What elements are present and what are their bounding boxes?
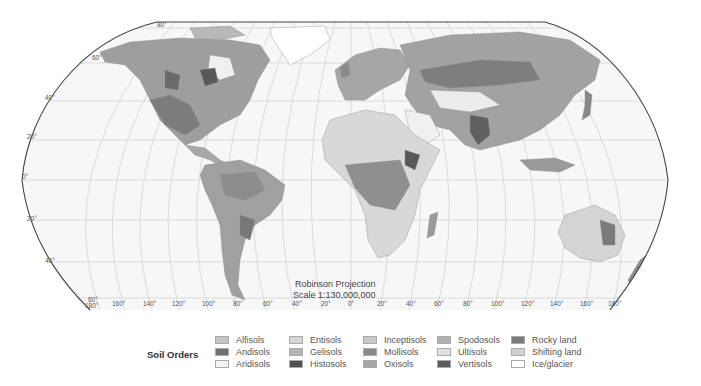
legend-item-mollisols: Mollisols bbox=[363, 346, 437, 358]
legend-column: Inceptisols Mollisols Oxisols bbox=[363, 334, 437, 370]
lon-label: 100° bbox=[491, 300, 505, 307]
legend-column: Entisols Gelisols Histosols bbox=[289, 334, 363, 370]
legend-column: Alfisols Andisols Aridisols bbox=[215, 334, 289, 370]
lon-label: 20° bbox=[321, 300, 331, 307]
legend-column: Spodosols Ultisols Vertisols bbox=[437, 334, 511, 370]
lon-label: 80° bbox=[233, 300, 243, 307]
swatch-icon bbox=[363, 348, 377, 356]
legend-item-shifting-land: Shifting land bbox=[511, 346, 585, 358]
swatch-icon bbox=[511, 360, 525, 368]
legend-item-inceptisols: Inceptisols bbox=[363, 334, 437, 346]
lon-label: 180° bbox=[85, 302, 99, 309]
lat-label: 20° bbox=[27, 215, 37, 222]
legend-item-histosols: Histosols bbox=[289, 358, 363, 370]
lat-label: 40° bbox=[45, 94, 55, 101]
lon-label: 0° bbox=[348, 300, 355, 307]
lon-label: 60° bbox=[434, 300, 444, 307]
swatch-icon bbox=[289, 336, 303, 344]
scale-label: Scale 1:130,000,000 bbox=[293, 290, 376, 300]
legend-item-vertisols: Vertisols bbox=[437, 358, 511, 370]
legend-item-rocky-land: Rocky land bbox=[511, 334, 585, 346]
legend-column: Rocky land Shifting land Ice/glacier bbox=[511, 334, 585, 370]
swatch-icon bbox=[215, 336, 229, 344]
swatch-icon bbox=[289, 348, 303, 356]
lat-label: 80° bbox=[157, 21, 167, 28]
lon-label: 40° bbox=[406, 300, 416, 307]
legend-item-alfisols: Alfisols bbox=[215, 334, 289, 346]
lon-label: 60° bbox=[263, 300, 273, 307]
lon-label: 120° bbox=[521, 300, 535, 307]
lat-label: 0° bbox=[22, 173, 29, 180]
legend-item-gelisols: Gelisols bbox=[289, 346, 363, 358]
swatch-icon bbox=[511, 348, 525, 356]
lon-label: 120° bbox=[172, 300, 186, 307]
lon-label: 40° bbox=[292, 300, 302, 307]
swatch-icon bbox=[437, 336, 451, 344]
swatch-icon bbox=[437, 360, 451, 368]
projection-label: Robinson Projection bbox=[295, 279, 376, 289]
swatch-icon bbox=[289, 360, 303, 368]
legend-item-entisols: Entisols bbox=[289, 334, 363, 346]
lon-label: 160° bbox=[580, 300, 594, 307]
legend-item-aridisols: Aridisols bbox=[215, 358, 289, 370]
lon-label: 80° bbox=[463, 300, 473, 307]
lon-label: 160° bbox=[112, 300, 126, 307]
legend-item-ultisols: Ultisols bbox=[437, 346, 511, 358]
lat-label: 20° bbox=[27, 133, 37, 140]
swatch-icon bbox=[511, 336, 525, 344]
lon-label: 100° bbox=[202, 300, 216, 307]
swatch-icon bbox=[437, 348, 451, 356]
lat-label: 60° bbox=[92, 54, 102, 61]
legend-item-oxisols: Oxisols bbox=[363, 358, 437, 370]
legend-title: Soil Orders bbox=[147, 349, 203, 360]
soil-orders-legend: Soil Orders Alfisols Andisols Aridisols … bbox=[147, 334, 585, 378]
swatch-icon bbox=[215, 348, 229, 356]
lon-label: 20° bbox=[377, 300, 387, 307]
lon-label: 180° bbox=[608, 300, 622, 307]
lon-label: 140° bbox=[550, 300, 564, 307]
lat-label: 40° bbox=[45, 257, 55, 264]
world-soil-map: 80° 60° 40° 20° 0° 20° 40° 60° 180° 160°… bbox=[0, 0, 701, 386]
legend-item-ice-glacier: Ice/glacier bbox=[511, 358, 585, 370]
lon-label: 140° bbox=[143, 300, 157, 307]
legend-item-spodosols: Spodosols bbox=[437, 334, 511, 346]
swatch-icon bbox=[363, 360, 377, 368]
legend-item-andisols: Andisols bbox=[215, 346, 289, 358]
swatch-icon bbox=[215, 360, 229, 368]
swatch-icon bbox=[363, 336, 377, 344]
